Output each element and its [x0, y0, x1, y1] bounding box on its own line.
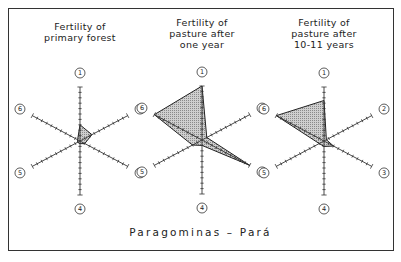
- axis-label-5: 5: [15, 168, 25, 178]
- svg-text:2: 2: [382, 105, 386, 113]
- radar-chart-pasture-one-year: 123456: [137, 67, 267, 213]
- svg-text:5: 5: [262, 169, 266, 177]
- fertility-polygon: [276, 101, 333, 147]
- svg-text:1: 1: [322, 69, 326, 77]
- panel-title-primary-forest: Fertility of primary forest: [30, 21, 130, 43]
- svg-text:6: 6: [140, 104, 144, 112]
- axis-label-1: 1: [197, 67, 207, 77]
- axis-label-3: 3: [379, 168, 389, 178]
- axis-label-2: 2: [379, 104, 389, 114]
- panel-title-pasture-10-11-years: Fertility of pasture after 10-11 years: [274, 17, 374, 50]
- svg-text:5: 5: [18, 169, 22, 177]
- axis-label-1: 1: [75, 68, 85, 78]
- axis-label-4: 4: [75, 204, 85, 214]
- axis-label-4: 4: [197, 203, 207, 213]
- panel-title-pasture-one-year: Fertility of pasture after one year: [152, 17, 252, 50]
- radar-chart-pasture-10-11-years: 123456: [259, 68, 389, 214]
- svg-text:5: 5: [140, 168, 144, 176]
- svg-text:1: 1: [78, 69, 82, 77]
- svg-text:4: 4: [200, 204, 204, 212]
- axis-label-5: 5: [137, 167, 147, 177]
- svg-text:4: 4: [78, 205, 82, 213]
- svg-text:4: 4: [322, 205, 326, 213]
- axis-label-5: 5: [259, 168, 269, 178]
- location-caption: Paragominas – Pará: [0, 226, 401, 238]
- svg-text:3: 3: [382, 169, 386, 177]
- axis-label-6: 6: [15, 104, 25, 114]
- axis-label-6: 6: [259, 104, 269, 114]
- axis-label-6: 6: [137, 103, 147, 113]
- svg-text:6: 6: [262, 105, 266, 113]
- svg-text:6: 6: [18, 105, 22, 113]
- radar-chart-primary-forest: 123456: [15, 68, 145, 214]
- axis-label-1: 1: [319, 68, 329, 78]
- axis-label-4: 4: [319, 204, 329, 214]
- svg-text:1: 1: [200, 68, 204, 76]
